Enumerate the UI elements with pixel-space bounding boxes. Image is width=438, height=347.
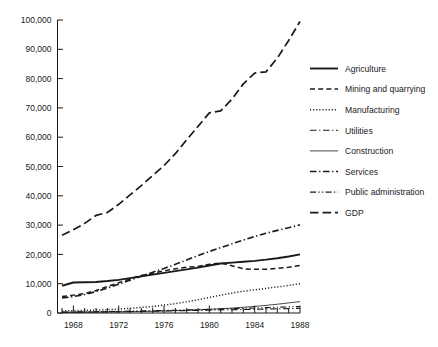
legend-label-utilities: Utilities xyxy=(345,126,373,136)
y-tick-label: 10,000 xyxy=(26,279,52,289)
y-axis: 010,00020,00030,00040,00050,00060,00070,… xyxy=(21,15,63,318)
series-line-public-administration xyxy=(62,307,300,313)
y-tick-label: 20,000 xyxy=(26,250,52,260)
legend-label-gdp: GDP xyxy=(345,208,364,218)
y-tick-label: 60,000 xyxy=(26,132,52,142)
line-chart: 010,00020,00030,00040,00050,00060,00070,… xyxy=(0,0,438,347)
legend-label-mining-and-quarrying: Mining and quarrying xyxy=(345,84,425,94)
chart-legend: AgricultureMining and quarryingManufactu… xyxy=(310,64,425,218)
x-tick-label: 1988 xyxy=(291,320,310,330)
y-tick-label: 90,000 xyxy=(26,44,52,54)
legend-label-public-administration: Public administration xyxy=(345,187,425,197)
series-line-gdp xyxy=(62,21,300,235)
x-tick-label: 1972 xyxy=(109,320,128,330)
chart-canvas: 010,00020,00030,00040,00050,00060,00070,… xyxy=(0,0,438,347)
series-lines xyxy=(62,21,300,312)
x-tick-label: 1968 xyxy=(64,320,83,330)
series-line-manufacturing xyxy=(62,284,300,311)
y-tick-label: 100,000 xyxy=(21,15,52,25)
legend-label-services: Services xyxy=(345,167,378,177)
y-tick-label: 50,000 xyxy=(26,162,52,172)
y-tick-label: 30,000 xyxy=(26,220,52,230)
legend-label-construction: Construction xyxy=(345,146,393,156)
x-tick-label: 1980 xyxy=(200,320,219,330)
y-tick-label: 40,000 xyxy=(26,191,52,201)
legend-label-agriculture: Agriculture xyxy=(345,64,386,74)
x-tick-label: 1984 xyxy=(245,320,264,330)
y-tick-label: 0 xyxy=(47,308,52,318)
x-tick-label: 1976 xyxy=(155,320,174,330)
legend-label-manufacturing: Manufacturing xyxy=(345,105,400,115)
y-tick-label: 70,000 xyxy=(26,103,52,113)
series-line-services xyxy=(62,225,300,298)
y-tick-label: 80,000 xyxy=(26,74,52,84)
series-line-construction xyxy=(62,302,300,313)
